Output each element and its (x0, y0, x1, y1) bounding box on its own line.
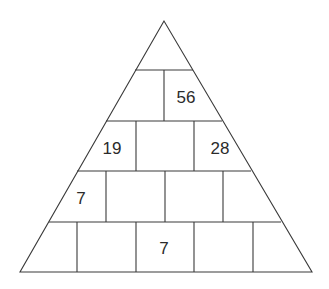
cell-r3c3: 28 (211, 140, 230, 157)
cell-r3c1: 19 (103, 140, 122, 157)
cell-r2c2: 56 (177, 89, 196, 106)
pyramid-outline (20, 21, 312, 272)
cell-r5c3: 7 (159, 240, 168, 257)
cell-r4c1: 7 (76, 190, 85, 207)
